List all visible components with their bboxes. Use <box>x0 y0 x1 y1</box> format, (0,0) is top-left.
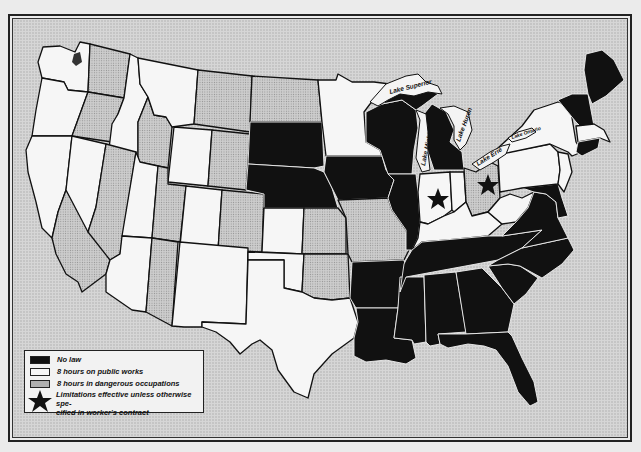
map-legend: No law 8 hours on public works 8 hours i… <box>24 350 204 413</box>
star-icon <box>28 390 52 412</box>
state-north-dakota <box>250 76 322 122</box>
swatch-dotted <box>30 380 50 388</box>
legend-label: 8 hours on public works <box>57 367 143 376</box>
state-kansas <box>262 208 346 254</box>
state-wyoming <box>168 127 250 190</box>
legend-label: Limitations effective unless otherwise s… <box>56 390 198 417</box>
legend-item-public-works: 8 hours on public works <box>30 366 198 377</box>
state-new-mexico <box>172 242 248 327</box>
swatch-white <box>30 368 50 376</box>
swatch-black <box>30 356 50 364</box>
state-south-dakota <box>248 122 324 168</box>
legend-label-line2: cified in worker's contract <box>56 408 149 417</box>
state-arkansas <box>350 260 406 308</box>
legend-label-line1: Limitations effective unless otherwise s… <box>56 390 191 408</box>
legend-item-no-law: No law <box>30 354 198 365</box>
legend-item-dangerous: 8 hours in dangerous occupations <box>30 378 198 389</box>
legend-label: 8 hours in dangerous occupations <box>57 379 180 388</box>
state-iowa <box>324 156 394 200</box>
state-colorado <box>180 186 264 252</box>
legend-label: No law <box>57 355 81 364</box>
legend-item-star: Limitations effective unless otherwise s… <box>30 390 198 412</box>
